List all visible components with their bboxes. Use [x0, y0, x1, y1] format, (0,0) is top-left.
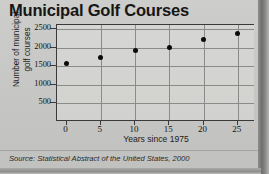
data-point [235, 31, 240, 36]
x-axis-tick-label: 5 [85, 124, 115, 134]
plot-area [56, 24, 254, 121]
y-axis-tick-label: 2500 [11, 24, 51, 32]
y-axis-title-line-2: golf courses [22, 0, 33, 109]
x-axis-tick-label: 0 [51, 124, 81, 134]
gridline-horizontal [57, 29, 254, 30]
x-axis-tick-label: 15 [153, 124, 183, 134]
gridline-vertical [238, 25, 239, 120]
gridline-vertical [135, 25, 136, 120]
page-edge-shadow [258, 0, 269, 174]
gridline-vertical [169, 25, 170, 120]
source-divider [0, 150, 258, 151]
data-point [133, 48, 138, 53]
data-point [98, 55, 103, 60]
x-axis-tick-label: 10 [119, 124, 149, 134]
data-point [167, 45, 172, 50]
data-point [201, 37, 206, 42]
gridline-horizontal [57, 103, 254, 104]
gridline-horizontal [57, 85, 254, 86]
chart-title: Municipal Golf Courses [9, 1, 189, 20]
x-axis-tick-label: 20 [188, 124, 218, 134]
y-axis-title: Number of municipal golf courses [12, 0, 33, 109]
y-axis-tick-label: 2000 [11, 43, 51, 51]
source-note: Source: Statistical Abstract of the Unit… [9, 154, 189, 163]
x-axis-title: Years since 1975 [56, 134, 256, 144]
y-axis-tick-label: 1000 [11, 80, 51, 88]
x-axis-tick-label: 25 [222, 124, 252, 134]
y-axis-tick-label: 500 [11, 98, 51, 106]
page-bottom-edge [0, 168, 261, 174]
gridline-horizontal [57, 66, 254, 67]
y-axis-tick-label: 1500 [11, 61, 51, 69]
figure-panel: Municipal Golf Courses Number of municip… [0, 0, 269, 174]
gridline-horizontal [57, 48, 254, 49]
gridline-vertical [101, 25, 102, 120]
